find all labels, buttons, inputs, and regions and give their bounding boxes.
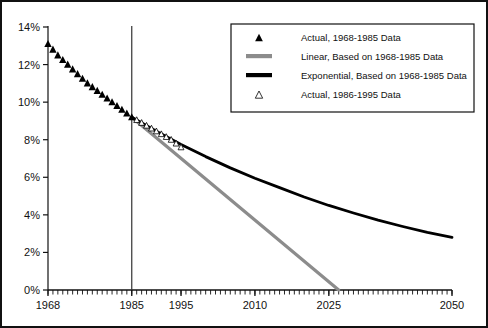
legend-label: Actual, 1968-1985 Data [301,32,402,43]
legend-label: Exponential, Based on 1968-1985 Data [301,70,468,81]
y-tick-label: 12% [18,59,40,71]
series-line-8c8c8c [132,117,339,290]
legend-swatch-line [246,73,272,77]
legend-label: Actual, 1986-1995 Data [301,89,402,100]
y-tick-label: 8% [24,134,40,146]
x-tick-label: 1968 [36,299,60,311]
y-tick-label: 2% [24,246,40,258]
x-tick-label: 2050 [440,299,464,311]
x-tick-label: 2010 [243,299,267,311]
y-tick-label: 10% [18,96,40,108]
y-tick-label: 6% [24,171,40,183]
marker-filled-triangle [44,40,51,47]
chart-canvas: 0%2%4%6%8%10%12%14%196819851995201020252… [2,2,486,326]
y-tick-label: 0% [24,284,40,296]
legend-label: Linear, Based on 1968-1985 Data [301,51,444,62]
chart-figure: 0%2%4%6%8%10%12%14%196819851995201020252… [0,0,488,328]
x-tick-label: 1985 [120,299,144,311]
legend-swatch-line [246,54,272,58]
y-tick-label: 14% [18,21,40,33]
series-line-000000 [132,117,452,237]
x-tick-label: 2025 [317,299,341,311]
y-tick-label: 4% [24,209,40,221]
x-tick-label: 1995 [169,299,193,311]
